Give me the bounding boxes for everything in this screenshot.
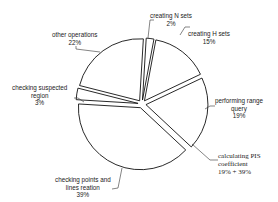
label-text: checking suspected [12, 84, 67, 92]
label-text: lines reation [55, 184, 111, 192]
label-value: 19% [215, 112, 263, 120]
pie-slices [76, 38, 208, 170]
label-value: 19% + 39% [218, 168, 261, 176]
label-text: region [12, 92, 67, 100]
label-calculating-pis: calculating PIS coefficient 19% + 39% [218, 152, 261, 176]
label-text: coefficient [218, 160, 261, 168]
label-text: creating N sets [150, 12, 192, 20]
label-text: calculating PIS [218, 152, 261, 160]
label-text: other operations [52, 31, 98, 39]
leader-other [76, 46, 100, 52]
label-value: 3% [12, 99, 67, 107]
leader-pis [192, 144, 218, 160]
label-checking-points-lines: checking points and lines reation 39% [55, 176, 111, 199]
leader-points [112, 168, 122, 189]
label-other-operations: other operations 22% [52, 31, 98, 46]
label-text: query [215, 105, 263, 113]
label-creating-n-sets: creating N sets 2% [150, 12, 192, 27]
label-checking-suspected-region: checking suspected region 3% [12, 84, 67, 107]
label-value: 22% [52, 39, 98, 47]
label-performing-range-query: performing range query 19% [215, 97, 263, 120]
label-creating-h-sets: creating H sets 15% [188, 30, 230, 45]
label-text: creating H sets [188, 30, 230, 38]
label-value: 15% [188, 38, 230, 46]
label-text: performing range [215, 97, 263, 105]
label-text: checking points and [55, 176, 111, 184]
label-value: 2% [150, 20, 192, 28]
label-value: 39% [55, 191, 111, 199]
